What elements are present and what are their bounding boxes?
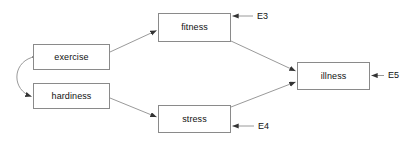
curve-exercise-hardiness-correlation [17, 58, 32, 97]
path-diagram-canvas: exercise hardiness fitness stress illnes… [0, 0, 415, 146]
node-stress[interactable]: stress [158, 105, 231, 133]
arrow-hardiness-to-stress [110, 98, 157, 117]
error-term-e3-label: E3 [257, 12, 268, 21]
node-fitness[interactable]: fitness [158, 13, 231, 42]
node-stress-label: stress [182, 115, 207, 124]
node-illness-label: illness [321, 72, 347, 81]
node-fitness-label: fitness [181, 23, 208, 32]
error-term-e4-label: E4 [258, 122, 269, 131]
node-exercise-label: exercise [54, 53, 88, 62]
error-term-e5-label: E5 [388, 71, 399, 80]
node-exercise[interactable]: exercise [33, 44, 110, 70]
arrow-fitness-to-illness [231, 41, 296, 71]
node-hardiness-label: hardiness [52, 92, 92, 101]
arrow-exercise-to-fitness [110, 31, 157, 53]
node-hardiness[interactable]: hardiness [33, 83, 110, 109]
node-illness[interactable]: illness [297, 62, 370, 90]
arrow-stress-to-illness [231, 82, 296, 107]
